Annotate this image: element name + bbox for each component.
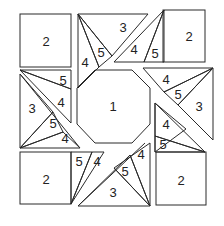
label-bl-square: 2	[42, 172, 49, 187]
top-piece-4a	[78, 14, 99, 88]
label-top-4b: 4	[130, 42, 137, 57]
label-bottom-3: 3	[109, 185, 116, 200]
left-piece-4b	[20, 132, 80, 148]
label-left-5b: 5	[49, 116, 56, 131]
label-top-5b: 5	[151, 46, 158, 61]
center-octagon: 1	[77, 70, 150, 143]
label-bottom-4b: 4	[137, 147, 144, 162]
top-unit: 3 5 4 4 5	[78, 10, 164, 88]
label-left-3: 3	[28, 101, 35, 116]
label-top-3: 3	[119, 20, 126, 35]
label-right-4b: 4	[162, 117, 169, 132]
corner-square-bottom-left: 2	[20, 152, 71, 204]
label-top-5a: 5	[97, 45, 104, 60]
corner-square-top-left: 2	[20, 14, 71, 67]
label-center: 1	[109, 99, 116, 114]
label-right-4a: 4	[162, 72, 169, 87]
label-left-4a: 4	[57, 95, 64, 110]
label-left-4b: 4	[61, 131, 68, 146]
label-bottom-4a: 4	[93, 154, 100, 169]
label-bottom-5b: 5	[121, 164, 128, 179]
label-tr-square: 2	[185, 29, 192, 44]
label-right-5b: 5	[159, 137, 166, 152]
label-left-5a: 5	[59, 73, 66, 88]
corner-square-top-right: 2	[163, 10, 205, 62]
label-right-5a: 5	[174, 87, 181, 102]
corner-square-bottom-right: 2	[156, 152, 206, 205]
label-right-3: 3	[195, 99, 202, 114]
label-top-4a: 4	[81, 55, 88, 70]
label-br-square: 2	[177, 173, 184, 188]
bottom-unit: 5 4 4 5 3	[71, 143, 150, 206]
label-tl-square: 2	[42, 34, 49, 49]
left-piece-3	[20, 74, 53, 148]
right-unit: 4 5 3 4 5	[143, 68, 213, 152]
quilt-block-diagram: 2 2 2 2 1 3 5 4 4 5 4 5	[0, 0, 224, 226]
left-unit: 5 4 3 5 4	[20, 70, 80, 148]
label-bottom-5a: 5	[75, 154, 82, 169]
right-piece-5a	[164, 68, 213, 105]
